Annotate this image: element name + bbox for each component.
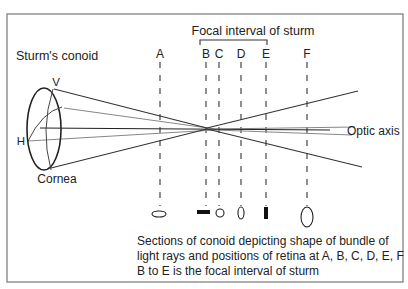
section-a-horizontal-ellipse bbox=[152, 211, 166, 217]
section-c-circle bbox=[216, 209, 224, 217]
horizontal-meridian bbox=[28, 107, 62, 141]
section-b-horizontal-line bbox=[197, 210, 210, 214]
ray-dark-upper-out bbox=[207, 91, 358, 128]
position-label-a: A bbox=[156, 47, 164, 61]
cornea-label: Cornea bbox=[37, 172, 77, 186]
position-label-e: E bbox=[262, 47, 270, 61]
section-e-vertical-line bbox=[264, 207, 268, 219]
focal-interval-bracket bbox=[200, 40, 267, 45]
position-label-d: D bbox=[237, 47, 246, 61]
position-label-b: B bbox=[202, 47, 210, 61]
position-label-f: F bbox=[303, 47, 310, 61]
v-label: V bbox=[52, 76, 60, 88]
ray-light-lower bbox=[28, 130, 215, 141]
caption-line-3: B to E is the focal interval of sturm bbox=[137, 264, 397, 279]
focal-interval-title: Focal interval of sturm bbox=[192, 24, 315, 38]
sturms-conoid-diagram: Focal interval of sturm A B C D E F bbox=[0, 0, 408, 289]
optic-axis-label: Optic axis bbox=[347, 124, 400, 138]
ray-light-lower-cont bbox=[215, 130, 352, 135]
figure-caption: Sections of conoid depicting shape of bu… bbox=[137, 234, 397, 279]
caption-line-2: light rays and positions of retina at A,… bbox=[137, 249, 397, 264]
section-d-vertical-ellipse bbox=[238, 207, 244, 219]
vertical-meridian bbox=[46, 89, 53, 170]
position-label-c: C bbox=[215, 47, 224, 61]
ray-dark-upper-in bbox=[54, 89, 207, 128]
section-f-vertical-ellipse bbox=[301, 207, 313, 227]
ray-light-upper-cont bbox=[215, 127, 355, 129]
h-label: H bbox=[17, 135, 25, 147]
sturms-conoid-label: Sturm's conoid bbox=[16, 49, 98, 63]
cornea-ellipse bbox=[27, 88, 61, 170]
caption-line-1: Sections of conoid depicting shape of bu… bbox=[137, 234, 397, 249]
